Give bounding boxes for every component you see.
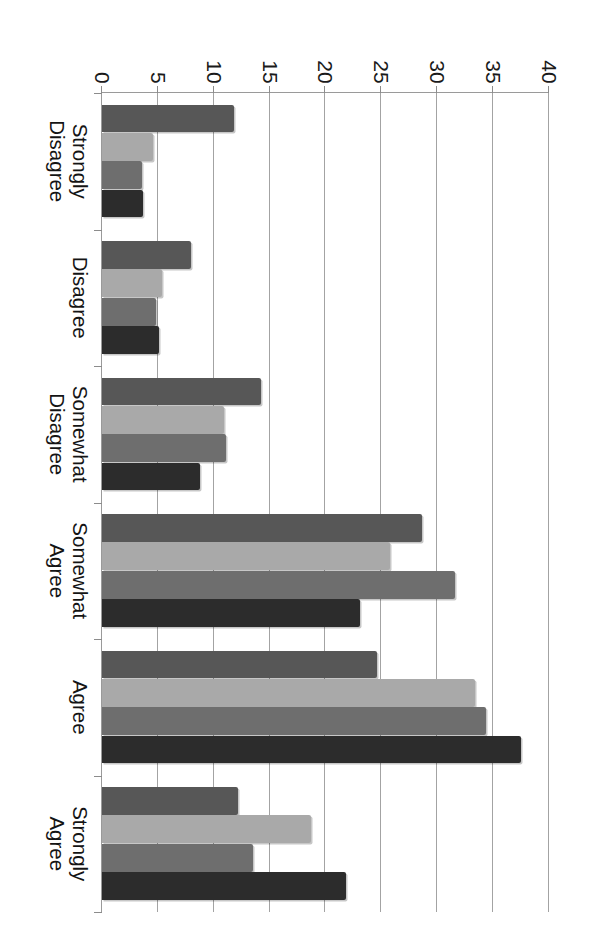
bar[interactable] — [102, 736, 521, 764]
bar[interactable] — [102, 679, 475, 707]
bar[interactable] — [102, 599, 360, 627]
bar[interactable] — [102, 463, 200, 491]
bar[interactable] — [102, 269, 162, 297]
category-axis-tick — [94, 639, 102, 640]
bar[interactable] — [102, 872, 346, 900]
category-label: Somewhat Disagree — [45, 366, 91, 503]
bar[interactable] — [102, 434, 226, 462]
y-axis-tick — [269, 86, 270, 93]
y-axis-tick — [213, 86, 214, 93]
bar[interactable] — [102, 133, 153, 161]
bar[interactable] — [102, 787, 238, 815]
category-axis-tick — [94, 230, 102, 231]
bar-group: Strongly Agree — [102, 776, 549, 913]
y-axis-tick — [325, 86, 326, 93]
y-axis-label: 40 — [537, 60, 561, 84]
bar-group: Agree — [102, 639, 549, 776]
y-axis-label: 5 — [146, 72, 170, 84]
y-axis-label: 30 — [425, 60, 449, 84]
bar[interactable] — [102, 105, 234, 133]
plot-area: 0510152025303540Strongly DisagreeDisagre… — [101, 92, 549, 912]
category-axis-tick — [94, 366, 102, 367]
category-axis-tick — [94, 776, 102, 777]
bar[interactable] — [102, 190, 143, 218]
category-axis-tick — [94, 93, 102, 94]
category-label: Agree — [68, 639, 91, 776]
y-axis-label: 35 — [481, 60, 505, 84]
bar[interactable] — [102, 844, 253, 872]
bar-group: Strongly Disagree — [102, 93, 549, 230]
bar[interactable] — [102, 406, 224, 434]
y-axis-label: 15 — [258, 60, 282, 84]
bar-group: Disagree — [102, 230, 549, 367]
y-axis-label: 10 — [202, 60, 226, 84]
category-label: Strongly Disagree — [45, 93, 91, 230]
bar[interactable] — [102, 298, 156, 326]
bar-group: Somewhat Agree — [102, 503, 549, 640]
bar-chart: 0510152025303540Strongly DisagreeDisagre… — [0, 0, 593, 934]
y-axis-tick — [436, 86, 437, 93]
rotated-figure-container: 0510152025303540Strongly DisagreeDisagre… — [0, 0, 593, 934]
bar[interactable] — [102, 707, 486, 735]
y-axis-label: 25 — [369, 60, 393, 84]
category-axis-tick — [94, 912, 102, 913]
bar-group: Somewhat Disagree — [102, 366, 549, 503]
bar[interactable] — [102, 651, 377, 679]
bar[interactable] — [102, 514, 422, 542]
category-label: Somewhat Agree — [45, 503, 91, 640]
bar[interactable] — [102, 571, 455, 599]
y-axis-tick — [380, 86, 381, 93]
bar[interactable] — [102, 241, 191, 269]
category-label: Disagree — [68, 230, 91, 367]
y-axis-label: 0 — [90, 72, 114, 84]
bar[interactable] — [102, 815, 311, 843]
bar[interactable] — [102, 326, 159, 354]
y-axis-label: 20 — [314, 60, 338, 84]
bar[interactable] — [102, 378, 261, 406]
category-label: Strongly Agree — [45, 776, 91, 913]
category-axis-tick — [94, 503, 102, 504]
y-axis-tick — [157, 86, 158, 93]
y-axis-tick — [492, 86, 493, 93]
y-axis-tick — [101, 86, 102, 93]
bar[interactable] — [102, 542, 390, 570]
y-axis-tick — [548, 86, 549, 93]
bar[interactable] — [102, 161, 142, 189]
